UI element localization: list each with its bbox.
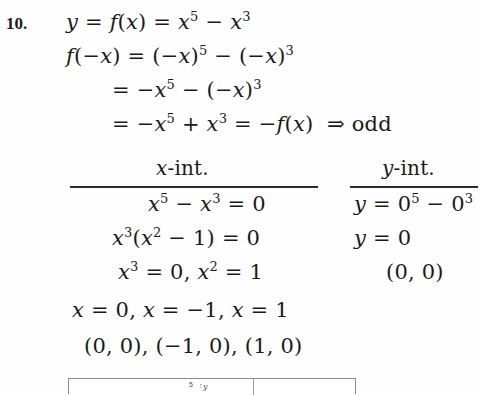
symmetry-conclusion: odd: [352, 112, 392, 136]
y-int-step-1: y = 05 − 03: [354, 194, 473, 215]
problem-number: 10.: [6, 14, 27, 34]
header-x-suffix: -int.: [167, 156, 208, 180]
x-int-step-1: x5 − x3 = 0: [148, 194, 266, 215]
work-line-4: = −x5 + x3 = −f(x) ⇒ odd: [112, 114, 392, 135]
y-int-step-2: y = 0: [354, 228, 411, 249]
graph-vertical-axis: [253, 379, 254, 395]
column-header-y-int: y-int.: [382, 158, 435, 178]
x-int-step-3: x3 = 0, x2 = 1: [118, 262, 263, 283]
y-int-point: (0, 0): [386, 262, 444, 283]
header-y-var: y: [382, 156, 394, 180]
x-int-step-2: x3(x2 − 1) = 0: [112, 228, 260, 249]
header-y-suffix: -int.: [394, 156, 435, 180]
header-x-var: x: [156, 156, 167, 180]
table-rule-right: [350, 186, 478, 188]
answer-points: (0, 0), (−1, 0), (1, 0): [84, 336, 303, 357]
graph-axis-arrow-icon: ↑: [199, 382, 203, 389]
work-line-2: f(−x) = (−x)5 − (−x)3: [66, 46, 294, 67]
answer-roots: x = 0, x = −1, x = 1: [72, 300, 289, 321]
graph-tick-label-5: 5: [189, 381, 193, 388]
work-line-3: = −x5 − (−x)3: [112, 80, 262, 101]
work-line-1: y = f(x) = x5 − x3: [66, 12, 251, 33]
table-rule-left: [70, 186, 318, 188]
graph-frame: 5 ↑ y: [68, 378, 356, 394]
column-header-x-int: x-int.: [156, 158, 209, 178]
graph-axis-label-y: y: [203, 382, 208, 391]
